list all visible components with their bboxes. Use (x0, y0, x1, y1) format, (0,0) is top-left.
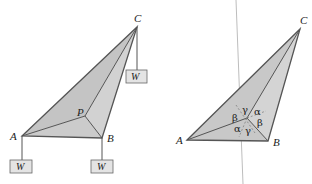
figure-canvas: W W W A B C P γ α β β α γ A B C (0, 0, 312, 184)
vertex-label-a: A (9, 130, 17, 142)
vertex-label-b: B (107, 132, 114, 144)
vertex-label-a-right: A (175, 134, 183, 146)
right-diagram: γ α β β α γ A B C (175, 14, 308, 148)
angle-label-beta-left: β (232, 112, 238, 123)
angle-label-gamma-top: γ (242, 104, 248, 115)
left-diagram: W W W A B C P (9, 12, 147, 173)
vertex-label-c-right: C (300, 14, 308, 26)
vertex-label-c: C (134, 12, 142, 24)
angle-label-beta-right: β (257, 117, 263, 128)
angle-label-alpha-upper-right: α (254, 106, 261, 117)
vertex-label-p: P (76, 106, 84, 118)
vertex-label-b-right: B (273, 136, 280, 148)
angle-label-alpha-lower-left: α (234, 123, 241, 134)
angle-label-gamma-bottom: γ (245, 125, 251, 136)
